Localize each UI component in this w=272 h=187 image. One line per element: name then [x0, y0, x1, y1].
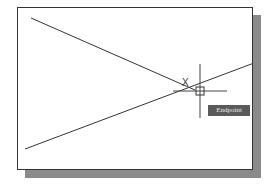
drawing-canvas[interactable]: X Endpoint	[17, 7, 253, 170]
osnap-tooltip: Endpoint	[208, 105, 250, 116]
cursor-x-icon: X	[182, 77, 189, 88]
line-entity-1[interactable]	[31, 18, 195, 90]
drawing-svg: X	[18, 8, 253, 170]
